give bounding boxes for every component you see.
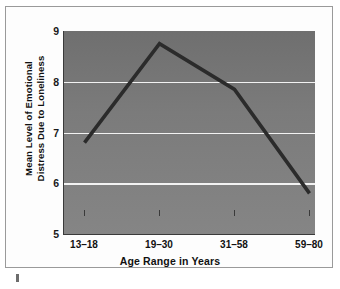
x-tick-label: 59–80 <box>279 239 339 250</box>
y-axis-title-line-1: Mean Level of Emotional <box>23 61 34 176</box>
y-tick-label: 8 <box>45 77 59 87</box>
line-chart: Mean Level of Emotional Distress Due to … <box>6 7 334 269</box>
x-tick-label: 31–58 <box>204 239 264 250</box>
x-tick-mark <box>159 210 160 216</box>
x-axis-title: Age Range in Years <box>6 255 334 267</box>
y-axis-title-container: Mean Level of Emotional Distress Due to … <box>14 47 44 217</box>
y-tick-label: 5 <box>45 229 59 239</box>
y-tick-label: 9 <box>45 26 59 36</box>
x-tick-mark <box>234 210 235 216</box>
y-axis-tick-labels: 9 8 7 6 5 <box>42 31 59 234</box>
x-tick-mark <box>309 210 310 216</box>
y-tick-label: 6 <box>45 178 59 188</box>
figure-card: Mean Level of Emotional Distress Due to … <box>5 6 333 268</box>
x-tick-mark <box>84 210 85 216</box>
x-tick-label: 13–18 <box>54 239 114 250</box>
x-axis-tick-labels: 13–18 19–30 31–58 59–80 <box>63 7 314 269</box>
footer-mark <box>16 274 19 282</box>
y-tick-label: 7 <box>45 128 59 138</box>
x-tick-label: 19–30 <box>129 239 189 250</box>
